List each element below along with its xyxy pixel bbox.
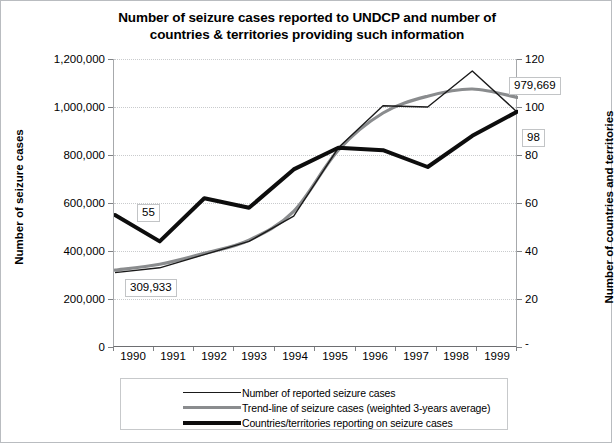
legend-label: Trend-line of seizure cases (weighted 3-… bbox=[241, 402, 490, 414]
y-axis-right-tick-80: 80 bbox=[525, 149, 561, 161]
legend-label: Number of reported seizure cases bbox=[241, 387, 395, 399]
y-axis-right-tick-60: 60 bbox=[525, 197, 561, 209]
y-axis-right-tick-40: 40 bbox=[525, 245, 561, 257]
data-label-countries-1990: 55 bbox=[137, 204, 160, 222]
chart-figure: Number of seizure cases reported to UNDC… bbox=[0, 0, 612, 443]
y-axis-right-tick-20: 20 bbox=[525, 293, 561, 305]
y-axis-left-tick-400000: 400,000 bbox=[13, 245, 105, 257]
y-axis-left-tick-1000000: 1,000,000 bbox=[13, 101, 105, 113]
chart-title-line-1: Number of seizure cases reported to UNDC… bbox=[61, 9, 553, 26]
series-lines bbox=[114, 59, 518, 347]
legend-swatch-thin-line-icon bbox=[183, 392, 241, 393]
x-axis-tick-1991: 1991 bbox=[151, 350, 195, 362]
data-label-seizures-1990: 309,933 bbox=[125, 279, 177, 297]
y-axis-left-tick-800000: 800,000 bbox=[13, 149, 105, 161]
y-axis-right-tick-0: - bbox=[525, 337, 561, 349]
y-axis-right-tick-120: 120 bbox=[525, 53, 561, 65]
x-axis-tick-1996: 1996 bbox=[353, 350, 397, 362]
x-axis-tick-1990: 1990 bbox=[111, 350, 155, 362]
x-axis-tick-1994: 1994 bbox=[273, 350, 317, 362]
plot-area bbox=[113, 59, 517, 347]
y-axis-left-tick-600000: 600,000 bbox=[13, 197, 105, 209]
chart-legend: Number of reported seizure cases Trend-l… bbox=[120, 378, 508, 430]
x-axis-tick-1997: 1997 bbox=[394, 350, 438, 362]
legend-swatch-gray-line-icon bbox=[183, 406, 241, 409]
chart-title: Number of seizure cases reported to UNDC… bbox=[61, 9, 553, 43]
legend-item-trend-line[interactable]: Trend-line of seizure cases (weighted 3-… bbox=[121, 400, 507, 415]
legend-item-countries[interactable]: Countries/territories reporting on seizu… bbox=[121, 415, 507, 430]
x-axis-tick-1998: 1998 bbox=[434, 350, 478, 362]
legend-item-seizure-cases[interactable]: Number of reported seizure cases bbox=[121, 385, 507, 400]
y-axis-right-title: Number of countries and territories bbox=[603, 97, 614, 317]
x-axis-tick-1992: 1992 bbox=[192, 350, 236, 362]
tick-mark-right bbox=[517, 347, 522, 348]
x-axis-tick-1993: 1993 bbox=[232, 350, 276, 362]
y-axis-left-tick-1200000: 1,200,000 bbox=[13, 53, 105, 65]
y-axis-right-tick-100: 100 bbox=[525, 101, 561, 113]
chart-title-line-2: countries & territories providing such i… bbox=[61, 26, 553, 43]
y-axis-left-tick-0: 0 bbox=[13, 341, 105, 353]
y-axis-left-tick-200000: 200,000 bbox=[13, 293, 105, 305]
legend-label: Countries/territories reporting on seizu… bbox=[241, 417, 452, 429]
x-axis-tick-1995: 1995 bbox=[313, 350, 357, 362]
data-label-seizures-1999: 979,669 bbox=[509, 77, 561, 95]
legend-swatch-thick-line-icon bbox=[183, 421, 241, 425]
data-label-countries-1999: 98 bbox=[522, 129, 545, 147]
x-axis-tick-1999: 1999 bbox=[475, 350, 519, 362]
